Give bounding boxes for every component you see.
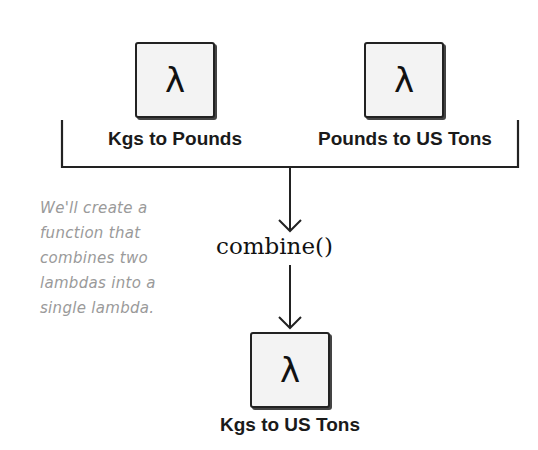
lambda-box-kgs-to-pounds: λ	[135, 42, 215, 118]
combine-function-label: combine()	[216, 233, 333, 259]
annotation-line: We'll create a	[40, 196, 200, 221]
label-pounds-to-us-tons: Pounds to US Tons	[294, 128, 516, 150]
diagram-canvas: λ Kgs to Pounds λ Pounds to US Tons comb…	[0, 0, 538, 450]
lambda-icon: λ	[165, 63, 185, 97]
annotation-note: We'll create a function that combines tw…	[40, 196, 200, 321]
annotation-line: combines two	[40, 246, 200, 271]
lambda-box-pounds-to-us-tons: λ	[364, 42, 444, 118]
annotation-line: lambdas into a	[40, 271, 200, 296]
lambda-box-kgs-to-us-tons: λ	[250, 332, 330, 408]
lambda-icon: λ	[394, 63, 414, 97]
label-kgs-to-pounds: Kgs to Pounds	[82, 128, 268, 150]
annotation-line: function that	[40, 221, 200, 246]
lambda-icon: λ	[280, 353, 300, 387]
label-kgs-to-us-tons: Kgs to US Tons	[190, 414, 390, 436]
annotation-line: single lambda.	[40, 296, 200, 321]
